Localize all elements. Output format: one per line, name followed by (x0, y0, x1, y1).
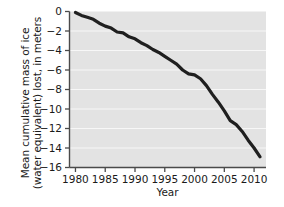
line-chart-plot: 0−2−4−6−8−10−12−14−16 198019851990199520… (0, 0, 284, 207)
y-axis-tick-label: −2 (47, 25, 62, 37)
y-axis-tick-label: −16 (40, 161, 62, 173)
y-axis-tick-label: −14 (40, 142, 62, 154)
x-axis-ticks-group: 1980198519901995200020052010 (62, 168, 267, 186)
y-axis-tick-label: −6 (47, 64, 63, 76)
y-axis-tick-label: −4 (47, 44, 63, 56)
y-axis-ticks-group: 0−2−4−6−8−10−12−14−16 (40, 5, 70, 173)
x-axis-tick-label: 1980 (62, 173, 89, 185)
chart-figure: Mean cumulative mass of ice (water equiv… (0, 0, 284, 207)
x-axis-label: Year (69, 186, 266, 198)
y-axis-tick-label: −8 (47, 83, 62, 95)
y-axis-tick-label: 0 (55, 5, 62, 17)
x-axis-tick-label: 1995 (151, 173, 178, 185)
x-axis-tick-label: 1985 (92, 173, 119, 185)
y-axis-tick-label: −10 (40, 103, 62, 115)
x-axis-tick-label: 2000 (181, 173, 208, 185)
y-axis-tick-label: −12 (40, 122, 62, 134)
x-axis-tick-label: 1990 (122, 173, 149, 185)
x-axis-tick-label: 2005 (211, 173, 238, 185)
x-axis-tick-label: 2010 (241, 173, 268, 185)
